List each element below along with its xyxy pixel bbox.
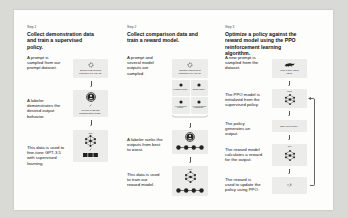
output-icon xyxy=(179,83,183,87)
prompt-icon xyxy=(187,62,193,68)
step-3-row-5-text: The reward is used to update the policy … xyxy=(225,177,261,193)
step-3-arrow-2 xyxy=(289,111,290,115)
step-1-row-1-text: A prompt is sampled from our prompt data… xyxy=(27,55,63,71)
step-2-prompt-outputs-box: Explain reinforcement learning to a 6 ye… xyxy=(172,59,208,122)
neural-network-icon xyxy=(284,94,296,105)
rm-label: RM xyxy=(172,168,208,170)
step-2-rm-box: RM xyxy=(172,166,208,196)
step-1-column: Step 1 Collect demonstration data and tr… xyxy=(14,10,114,210)
ppo-label: PPO xyxy=(272,90,307,92)
sft-label: SFT xyxy=(73,132,108,134)
ppo-update-loop-arrow xyxy=(310,98,315,186)
step-1-prompt-caption: Explain reinforcement learning to a 6 ye… xyxy=(73,69,108,74)
output-a: In machine learning... xyxy=(172,80,190,96)
step-3-arrow-3 xyxy=(289,135,290,139)
step-2-prompt-caption: Explain reinforcement learning to a 6 ye… xyxy=(172,69,208,74)
loop-arrowhead-icon xyxy=(308,97,311,100)
step-2-row-3-text: This data is used to train our reward mo… xyxy=(127,172,161,188)
step-1-labeler-box: We give treats and punishments to teach.… xyxy=(73,90,108,117)
step-3-column: Step 3 Optimize a policy against the rew… xyxy=(212,10,333,210)
training-data-icon xyxy=(83,153,98,158)
step-3-row-1-text: A new prompt is sampled from the dataset… xyxy=(225,55,259,71)
step-2-label: Step 2 xyxy=(127,25,136,29)
diagram-panel: Step 1 Collect demonstration data and tr… xyxy=(14,10,333,210)
step-3-output-box: Once upon a time... xyxy=(272,120,307,132)
labeler-icon xyxy=(86,92,96,102)
neural-network-icon xyxy=(184,171,197,183)
step-2-title: Collect comparison data and train a rewa… xyxy=(127,31,199,44)
neural-network-icon xyxy=(84,135,97,147)
step-3-rm-box: RM xyxy=(272,144,307,166)
ranking-icon xyxy=(176,145,204,150)
output-d: We give treats and punishments... xyxy=(191,97,209,114)
step-1-prompt-box: Explain reinforcement learning to a 6 ye… xyxy=(73,59,108,78)
step-3-prompt-box: Write a story about otters. xyxy=(272,59,307,78)
step-3-arrow-1 xyxy=(289,81,290,85)
bracket-icon xyxy=(172,115,208,119)
step-2-arrow-2 xyxy=(190,157,191,162)
step-1-demo-caption: We give treats and punishments to teach.… xyxy=(73,109,108,114)
pencil-icon xyxy=(89,148,92,151)
step-3-ppo-box: PPO xyxy=(272,89,307,108)
rm-label: RM xyxy=(272,145,307,147)
neural-network-icon xyxy=(284,150,296,161)
step-2-prompt-box: Explain reinforcement learning to a 6 ye… xyxy=(172,59,208,78)
step-3-arrow-4 xyxy=(289,169,290,173)
output-icon xyxy=(197,100,201,104)
reward-symbol: r_k xyxy=(272,184,307,187)
step-2-row-2-text: A labeler ranks the outputs from best to… xyxy=(127,137,163,153)
step-3-title: Optimize a policy against the reward mod… xyxy=(225,31,305,56)
step-1-title: Collect demonstration data and train a s… xyxy=(27,31,99,50)
output-icon xyxy=(197,83,201,87)
step-1-arrow-1 xyxy=(91,81,92,86)
ranking-icon xyxy=(176,188,204,193)
output-c: In reinforcement learning... xyxy=(172,97,190,114)
step-3-output-caption: Once upon a time... xyxy=(272,125,307,128)
labeler-icon xyxy=(185,132,195,142)
otter-icon xyxy=(284,62,295,67)
step-1-row-3-text: This data is used to fine-tune GPT-3.5 w… xyxy=(27,145,65,166)
step-2-ranking-box xyxy=(172,130,208,154)
step-3-row-2-text: The PPO model is initialized from the su… xyxy=(225,92,261,108)
step-1-arrow-2 xyxy=(91,120,92,125)
step-2-row-1-text: A prompt and several model outputs are s… xyxy=(127,55,157,76)
prompt-icon xyxy=(88,62,94,68)
step-3-row-4-text: The reward model calculates a reward for… xyxy=(225,147,263,163)
step-3-label: Step 3 xyxy=(225,25,234,29)
output-b: Explain rewards... xyxy=(191,80,209,96)
step-2-column: Step 2 Collect comparison data and train… xyxy=(114,10,212,210)
step-3-reward-box: r_k xyxy=(272,177,307,194)
step-1-label: Step 1 xyxy=(27,25,36,29)
step-1-row-2-text: A labeler demonstrates the desired outpu… xyxy=(27,98,63,119)
step-3-row-3-text: The policy generates an output. xyxy=(225,121,261,137)
pencil-icon xyxy=(89,104,92,107)
step-1-sft-box: SFT xyxy=(73,130,108,162)
output-icon xyxy=(179,100,183,104)
step-2-arrow-1 xyxy=(190,123,191,127)
step-3-prompt-caption: Write a story about otters. xyxy=(272,69,307,74)
